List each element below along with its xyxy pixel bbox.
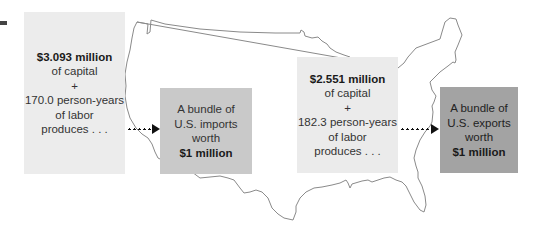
- exports-capital-amount: $2.551 million: [310, 72, 385, 87]
- exports-bundle-line3: worth: [465, 130, 493, 145]
- exports-bundle-box: A bundle of U.S. exports worth $1 millio…: [440, 87, 518, 173]
- imports-capital-amount: $3.093 million: [37, 50, 112, 65]
- exports-labor-label: of labor: [328, 130, 366, 145]
- edge-mark: [0, 21, 7, 25]
- exports-bundle-line1: A bundle of: [450, 101, 508, 116]
- imports-produces-label: produces . . .: [41, 122, 107, 137]
- imports-plus-sign: +: [71, 79, 78, 94]
- imports-labor-amount: 170.0 person-years: [25, 93, 124, 108]
- exports-dotted-arrow: [400, 124, 440, 134]
- imports-bundle-line2: U.S. imports: [174, 117, 237, 132]
- exports-produces-label: produces . . .: [314, 144, 380, 159]
- imports-capital-label: of capital: [51, 64, 97, 79]
- dotted-line: [127, 128, 152, 130]
- imports-labor-label: of labor: [55, 108, 93, 123]
- dotted-line: [400, 128, 431, 130]
- exports-bundle-value: $1 million: [452, 145, 505, 160]
- imports-factor-input-box: $3.093 million of capital + 170.0 person…: [24, 12, 125, 174]
- exports-capital-label: of capital: [324, 86, 370, 101]
- imports-bundle-line1: A bundle of: [177, 102, 235, 117]
- imports-bundle-box: A bundle of U.S. imports worth $1 millio…: [160, 88, 252, 174]
- exports-labor-amount: 182.3 person-years: [298, 115, 397, 130]
- exports-factor-input-box: $2.551 million of capital + 182.3 person…: [297, 57, 398, 173]
- imports-bundle-line3: worth: [192, 131, 220, 146]
- exports-plus-sign: +: [344, 101, 351, 116]
- imports-bundle-value: $1 million: [179, 146, 232, 161]
- arrowhead-icon: [152, 124, 160, 134]
- arrowhead-icon: [431, 124, 439, 134]
- exports-bundle-line2: U.S. exports: [447, 116, 510, 131]
- imports-dotted-arrow: [127, 124, 160, 134]
